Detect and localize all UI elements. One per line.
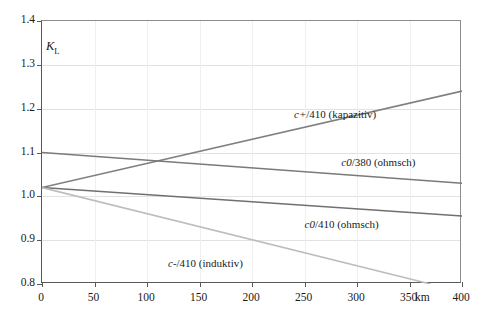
series-line-3 bbox=[42, 188, 431, 284]
series-label-symbol-1: c0 bbox=[341, 156, 351, 168]
x-axis-tick-label: 200 bbox=[231, 292, 271, 304]
x-axis-tick-label: 300 bbox=[336, 292, 376, 304]
y-axis-tick-label: 0.9 bbox=[1, 233, 35, 245]
x-axis-tick-label: 0 bbox=[21, 292, 61, 304]
series-label-suffix-1: /380 (ohmsch) bbox=[352, 156, 416, 168]
x-axis-tick-label: 50 bbox=[74, 292, 114, 304]
y-axis-tick-label: 1.1 bbox=[1, 146, 35, 158]
y-axis-tick-label: 1.4 bbox=[1, 14, 35, 26]
x-axis-unit-label: km bbox=[415, 292, 430, 304]
x-axis-tick-label: 150 bbox=[179, 292, 219, 304]
series-label-0: c+/410 (kapazitiv) bbox=[294, 109, 376, 120]
series-label-suffix-2: /410 (ohmsch) bbox=[315, 218, 379, 230]
series-line-2 bbox=[42, 188, 462, 216]
chart-figure: KL c+/410 (kapazitiv)c0/380 (ohmsch)c0/4… bbox=[0, 0, 483, 329]
y-axis-tick-label: 0.8 bbox=[1, 277, 35, 289]
series-label-2: c0/410 (ohmsch) bbox=[305, 219, 379, 230]
plot-area: c+/410 (kapazitiv)c0/380 (ohmsch)c0/410 … bbox=[41, 20, 461, 283]
x-axis-tick-label: 250 bbox=[284, 292, 324, 304]
x-axis-tick-label: 400 bbox=[441, 292, 481, 304]
series-label-suffix-0: /410 (kapazitiv) bbox=[306, 108, 376, 120]
x-axis-tick-label: 100 bbox=[126, 292, 166, 304]
y-axis-tick-label: 1.3 bbox=[1, 58, 35, 70]
series-label-symbol-0: c+ bbox=[294, 108, 306, 120]
y-axis-tick-label: 1.0 bbox=[1, 189, 35, 201]
y-axis-tick-label: 1.2 bbox=[1, 102, 35, 114]
series-label-symbol-3: c- bbox=[168, 257, 177, 269]
series-lines bbox=[42, 21, 462, 284]
series-label-symbol-2: c0 bbox=[305, 218, 315, 230]
series-label-3: c-/410 (induktiv) bbox=[168, 258, 243, 269]
series-label-suffix-3: /410 (induktiv) bbox=[177, 257, 243, 269]
series-label-1: c0/380 (ohmsch) bbox=[341, 157, 415, 168]
x-axis-tick bbox=[462, 282, 463, 287]
series-line-0 bbox=[42, 91, 462, 187]
